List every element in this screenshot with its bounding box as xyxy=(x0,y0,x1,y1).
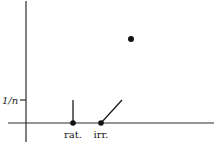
diagram: 1/n rat. irr. xyxy=(0,0,218,151)
irrational-label: irr. xyxy=(94,129,109,140)
irrational-diagonal-segment xyxy=(101,100,122,123)
rational-label: rat. xyxy=(64,129,82,140)
rational-point xyxy=(70,120,76,126)
irrational-point xyxy=(98,120,104,126)
y-tick-label: 1/n xyxy=(2,95,18,106)
isolated-point xyxy=(128,36,134,42)
